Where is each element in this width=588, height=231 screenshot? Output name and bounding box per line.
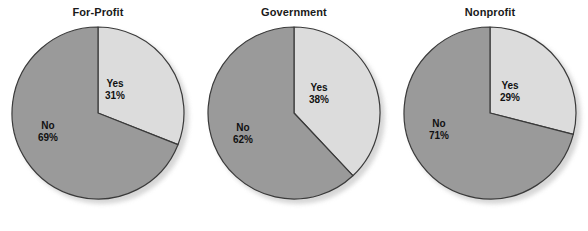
page-title-government: Government <box>196 6 392 19</box>
page-title-for-profit: For-Profit <box>0 6 196 19</box>
pie-slices <box>208 27 380 199</box>
pie-panel-for-profit: For-Profit Yes 31% No 69% <box>0 0 196 231</box>
pie-svg-nonprofit <box>403 26 577 200</box>
pie-slices <box>12 27 184 199</box>
pie-chart-figure: For-Profit Yes 31% No 69% Government <box>0 0 588 231</box>
pie-chart-nonprofit: Yes 29% No 71% <box>403 26 577 200</box>
pie-chart-government: Yes 38% No 62% <box>207 26 381 200</box>
pie-svg-government <box>207 26 381 200</box>
pie-chart-for-profit: Yes 31% No 69% <box>11 26 185 200</box>
pie-svg-for-profit <box>11 26 185 200</box>
pie-panel-nonprofit: Nonprofit Yes 29% No 71% <box>392 0 588 231</box>
page-title-nonprofit: Nonprofit <box>392 6 588 19</box>
pie-panel-government: Government Yes 38% No 62% <box>196 0 392 231</box>
pie-slices <box>404 27 576 199</box>
